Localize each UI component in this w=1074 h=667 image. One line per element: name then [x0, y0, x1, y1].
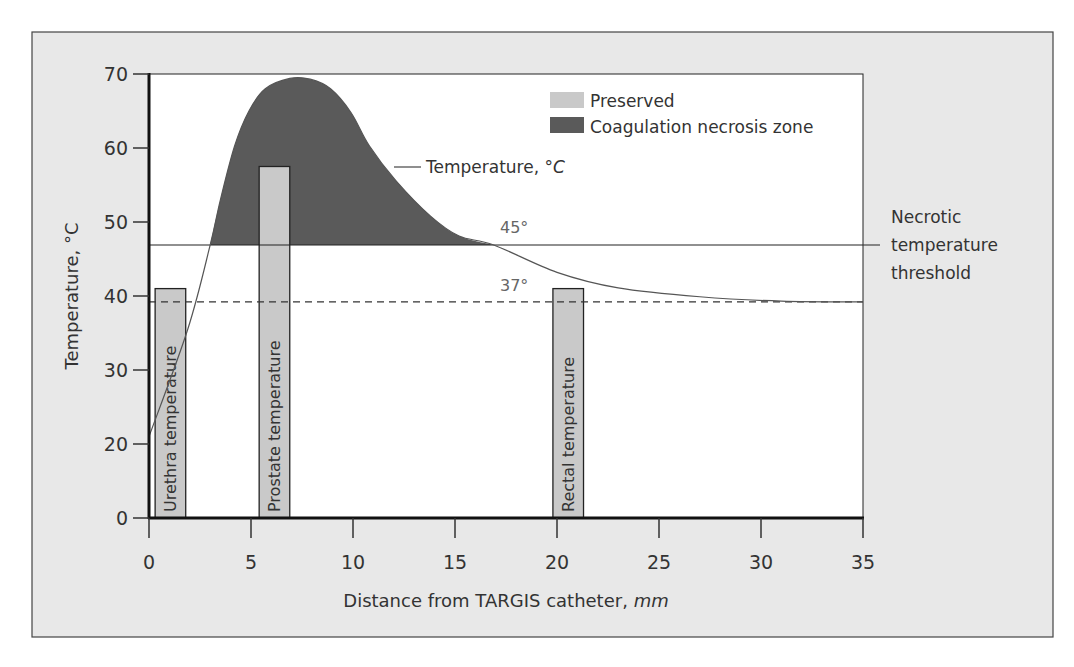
- x-tick-label-10: 10: [341, 551, 365, 573]
- y-tick-label-30: 30: [104, 359, 128, 381]
- threshold-side-label-line1: Necrotic: [891, 207, 961, 227]
- threshold-side-label-line2: temperature: [891, 235, 998, 255]
- chart: Urethra temperatureProstate temperatureR…: [0, 0, 1074, 667]
- y-tick-label-20: 20: [104, 433, 128, 455]
- bar-label-urethra: Urethra temperature: [161, 346, 180, 512]
- baseline-37-label: 37°: [500, 276, 528, 295]
- bar-label-prostate: Prostate temperature: [265, 340, 284, 512]
- x-tick-label-20: 20: [545, 551, 569, 573]
- temperature-curve-label: Temperature, °C: [425, 157, 565, 177]
- threshold-side-label-line3: threshold: [891, 263, 971, 283]
- bar-label-rectal: Rectal temperature: [559, 357, 578, 512]
- x-tick-label-35: 35: [851, 551, 875, 573]
- legend-swatch-preserved: [550, 92, 584, 108]
- y-tick-label-50: 50: [104, 211, 128, 233]
- legend-swatch-necrosis: [550, 117, 584, 133]
- legend-label-preserved: Preserved: [590, 91, 675, 111]
- x-tick-label-5: 5: [245, 551, 257, 573]
- y-tick-label-60: 60: [104, 137, 128, 159]
- x-axis-label-unit: mm: [634, 590, 669, 611]
- legend-label-necrosis: Coagulation necrosis zone: [590, 117, 813, 137]
- y-tick-label-40: 40: [104, 285, 128, 307]
- x-tick-label-15: 15: [443, 551, 467, 573]
- x-tick-label-25: 25: [647, 551, 671, 573]
- x-axis-label-text: Distance from TARGIS catheter,: [343, 590, 628, 611]
- threshold-45-label: 45°: [500, 218, 528, 237]
- y-tick-label-70: 70: [104, 63, 128, 85]
- x-tick-label-30: 30: [749, 551, 773, 573]
- x-tick-label-0: 0: [143, 551, 155, 573]
- y-axis-label: Temperature, °C: [61, 222, 82, 370]
- x-axis-label: Distance from TARGIS catheter, mm: [343, 590, 668, 611]
- y-tick-label-0: 0: [116, 507, 128, 529]
